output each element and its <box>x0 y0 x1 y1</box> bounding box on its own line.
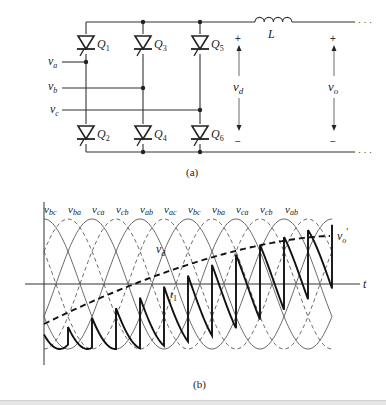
node-dot <box>141 150 145 154</box>
label-vb: vb <box>48 79 57 95</box>
node-dot <box>141 86 145 90</box>
vd-sawtooth <box>44 225 332 349</box>
curve-label: vab <box>285 203 298 217</box>
vo-voltage-arrow: + − vo <box>328 33 339 147</box>
label-q4: Q4 <box>154 127 167 143</box>
curve-label: vca <box>92 203 104 217</box>
curve-label: vba <box>68 203 81 217</box>
node-dot <box>84 60 88 64</box>
label-t1: t1 <box>170 288 177 303</box>
three-phase-bridge-circuit: Q1 Q3 Q5 Q2 Q4 Q6 va vb vc L · · · · · ·… <box>48 17 372 179</box>
label-inductor: L <box>267 27 275 41</box>
thyristor-q6-icon <box>191 124 209 146</box>
top-continuation-dots: · · · <box>358 17 372 27</box>
label-q5: Q5 <box>211 37 224 53</box>
label-vd-trace: vd <box>156 242 166 258</box>
svg-text:−: − <box>235 136 241 147</box>
thyristor-q1-icon <box>77 34 95 56</box>
curve-label: vbc <box>44 203 57 217</box>
svg-text:+: + <box>235 33 241 44</box>
vd-output-voltage-trace <box>44 225 332 349</box>
curve-label: vbc <box>188 203 201 217</box>
label-time-axis: t <box>363 277 367 291</box>
node-dot <box>198 150 202 154</box>
caption-b: (b) <box>193 378 206 391</box>
label-q1: Q1 <box>97 37 110 53</box>
page-edge-rule <box>0 400 386 405</box>
label-vd: vd <box>233 79 244 96</box>
rectifier-waveforms: t vbc vba vca vcb vab vac vbc vba vca vc… <box>25 202 367 391</box>
label-q6: Q6 <box>211 127 224 143</box>
curve-label: vca <box>236 203 248 217</box>
curve-label: vac <box>164 203 177 217</box>
label-vc: vc <box>50 102 59 118</box>
label-va: va <box>48 54 57 70</box>
caption-a: (a) <box>186 166 199 179</box>
svg-text:−: − <box>330 136 336 147</box>
inductor-icon <box>255 17 292 22</box>
label-vo: vo <box>328 79 339 96</box>
vd-voltage-arrow: + − vd <box>233 33 244 147</box>
svg-text:+: + <box>330 33 336 44</box>
node-dot <box>198 20 202 24</box>
curve-label: vba <box>212 203 225 217</box>
curve-labels: vbc vba vca vcb vab vac vbc vba vca vcb … <box>44 203 298 217</box>
thyristor-q2-icon <box>77 124 95 146</box>
thyristor-q3-icon <box>134 34 152 56</box>
bottom-continuation-dots: · · · <box>358 147 372 157</box>
thyristor-q4-icon <box>134 124 152 146</box>
curve-label: vcb <box>260 203 272 217</box>
label-q2: Q2 <box>97 127 110 143</box>
curve-label: vcb <box>116 203 128 217</box>
label-vo-prime: vo′ <box>337 226 349 245</box>
thyristor-q5-icon <box>191 34 209 56</box>
node-dot <box>198 108 202 112</box>
curve-label: vab <box>140 203 153 217</box>
node-dot <box>141 20 145 24</box>
label-q3: Q3 <box>154 37 167 53</box>
